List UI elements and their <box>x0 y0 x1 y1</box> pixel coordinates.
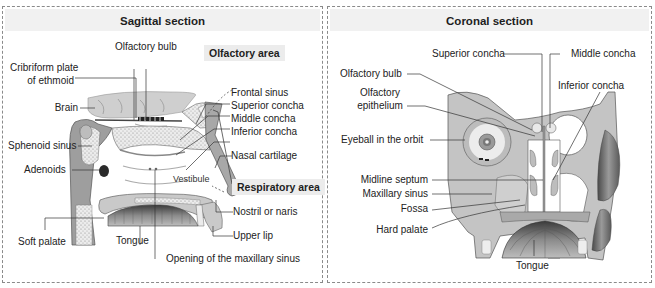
label-olfactory-epithelium-2: epithelium <box>350 100 410 111</box>
label-brain: Brain <box>20 102 78 113</box>
label-maxillary-opening: Opening of the maxillary sinus <box>166 253 300 264</box>
label-vestibule: Vestibule <box>173 174 210 185</box>
label-eyeball: Eyeball in the orbit <box>341 134 423 145</box>
label-olfactory-epithelium-1: Olfactory <box>350 87 410 98</box>
label-of-ethmoid: of ethmoid <box>10 75 74 86</box>
label-middle-concha-coronal: Middle concha <box>571 48 635 59</box>
label-olfactory-bulb-coronal: Olfactory bulb <box>340 68 402 79</box>
label-midline-septum: Midline septum <box>340 174 428 185</box>
label-fossa: Fossa <box>340 203 428 214</box>
label-superior-concha-coronal: Superior concha <box>432 48 505 59</box>
label-middle-concha: Middle concha <box>231 113 295 124</box>
label-olfactory-bulb: Olfactory bulb <box>115 41 177 52</box>
label-nostril: Nostril or naris <box>233 206 297 217</box>
label-upper-lip: Upper lip <box>233 230 273 241</box>
label-inferior-concha-coronal: Inferior concha <box>558 80 624 91</box>
label-nasal-cartilage: Nasal cartilage <box>231 150 297 161</box>
label-hard-palate: Hard palate <box>340 224 428 235</box>
label-inferior-concha: Inferior concha <box>231 126 297 137</box>
label-cribriform-plate: Cribriform plate <box>10 62 74 73</box>
tag-respiratory-area: Respiratory area <box>232 179 325 195</box>
tag-olfactory-area: Olfactory area <box>204 45 285 61</box>
label-sphenoid-sinus: Sphenoid sinus <box>8 140 76 151</box>
label-adenoids: Adenoids <box>24 164 66 175</box>
label-tongue-coronal: Tongue <box>516 260 549 271</box>
label-tongue-sagittal: Tongue <box>116 235 149 246</box>
label-maxillary-sinus: Maxillary sinus <box>340 188 428 199</box>
label-superior-concha: Superior concha <box>231 100 304 111</box>
coronal-title: Coronal section <box>330 15 649 27</box>
label-soft-palate: Soft palate <box>18 236 66 247</box>
coronal-header: Coronal section <box>330 9 649 31</box>
label-frontal-sinus: Frontal sinus <box>231 87 288 98</box>
